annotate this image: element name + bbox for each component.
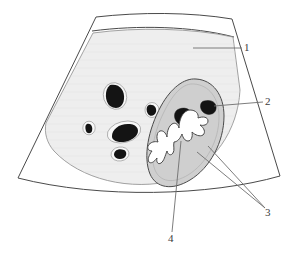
callout-label-1: 1: [244, 42, 250, 53]
vessel-c: [83, 121, 95, 135]
callout-label-3: 3: [265, 207, 271, 218]
callout-label-4: 4: [168, 233, 174, 244]
callout-label-2: 2: [265, 96, 271, 107]
figure-root: 1 2 3 4: [0, 0, 298, 260]
ultrasound-sector-diagram: [0, 0, 298, 260]
